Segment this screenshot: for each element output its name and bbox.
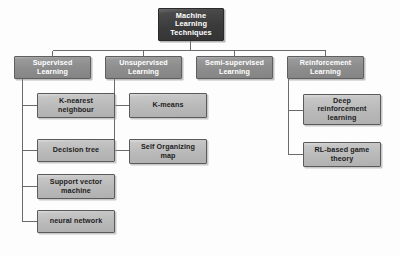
node-k-means[interactable]: K-means <box>129 93 207 118</box>
node-deep-reinforcement-learning-label: Deep reinforcement learning <box>315 97 368 121</box>
node-k-nearest-neighbour-label: K-nearest neighbour <box>56 97 96 113</box>
node-semi-supervised-learning-label: Semi-supervised Learning <box>203 59 266 75</box>
node-self-organizing-map[interactable]: Self Organizing map <box>129 139 207 164</box>
node-rl-based-game-theory[interactable]: RL-based game theory <box>303 142 381 167</box>
node-root[interactable]: Machine Learning Techniques <box>158 8 224 41</box>
node-k-means-label: K-means <box>150 101 185 109</box>
node-unsupervised-learning[interactable]: Unsupervised Learning <box>105 56 182 79</box>
diagram-canvas: Machine Learning Techniques Supervised L… <box>0 0 400 256</box>
node-neural-network[interactable]: neural network <box>37 210 115 233</box>
node-decision-tree[interactable]: Decision tree <box>37 139 115 162</box>
node-self-organizing-map-label: Self Organizing map <box>139 143 197 159</box>
node-rl-based-game-theory-label: RL-based game theory <box>313 146 372 162</box>
node-supervised-learning[interactable]: Supervised Learning <box>14 56 91 79</box>
node-support-vector-machine-label: Support vector machine <box>48 178 105 194</box>
node-reinforcement-learning-label: Reinforcement Learning <box>298 59 354 75</box>
node-k-nearest-neighbour[interactable]: K-nearest neighbour <box>37 93 115 118</box>
node-decision-tree-label: Decision tree <box>51 146 101 154</box>
node-unsupervised-learning-label: Unsupervised Learning <box>117 59 170 75</box>
node-root-label: Machine Learning Techniques <box>168 12 214 37</box>
node-semi-supervised-learning[interactable]: Semi-supervised Learning <box>196 56 273 79</box>
node-reinforcement-learning[interactable]: Reinforcement Learning <box>287 56 364 79</box>
node-support-vector-machine[interactable]: Support vector machine <box>37 174 115 199</box>
node-deep-reinforcement-learning[interactable]: Deep reinforcement learning <box>303 94 381 125</box>
node-supervised-learning-label: Supervised Learning <box>31 59 75 75</box>
node-neural-network-label: neural network <box>48 217 105 225</box>
